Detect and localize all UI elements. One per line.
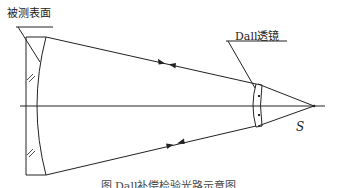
ray-lower — [46, 126, 256, 175]
test-surface-label: 被测表面 — [7, 8, 51, 19]
optical-test-diagram — [0, 0, 337, 188]
arrow-right-icon — [166, 144, 173, 150]
arrow-left-icon — [177, 139, 185, 145]
leader-surface — [18, 27, 40, 62]
point-source-label: S — [296, 121, 304, 133]
arrow-left-icon — [169, 63, 176, 69]
dall-lens-label: Dall透镜 — [235, 31, 279, 42]
figure-caption: 图 Dall补偿检验光路示意图 — [0, 181, 337, 188]
ray-upper-to-source — [258, 84, 314, 106]
surface-hatch-icon — [27, 74, 35, 157]
point-source-icon — [313, 105, 316, 108]
ray-upper — [46, 37, 256, 84]
ray-lower-to-source — [258, 106, 314, 126]
